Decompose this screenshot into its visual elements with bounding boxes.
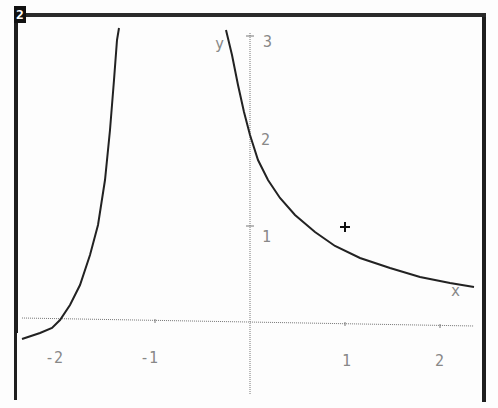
curve-left-branch: [22, 28, 119, 339]
x-axis: [22, 318, 474, 326]
x-tick-label-neg1: -1: [140, 350, 158, 366]
graph-screen: 2 y 3 2 1 x -2 -1 1 2: [0, 0, 498, 408]
curve-right-branch: [226, 30, 474, 287]
x-tick-label-1: 1: [342, 353, 351, 369]
x-tick-label-2: 2: [435, 353, 444, 369]
graph-plot-area[interactable]: [0, 0, 498, 408]
y-tick-label-2: 2: [261, 132, 270, 148]
x-tick-label-neg2: -2: [45, 350, 63, 366]
y-tick-label-1: 1: [262, 229, 271, 245]
y-tick-label-3: 3: [263, 34, 272, 50]
y-axis-label: y: [215, 36, 224, 52]
crosshair-cursor-icon[interactable]: [340, 222, 350, 232]
x-axis-label: x: [451, 283, 460, 299]
